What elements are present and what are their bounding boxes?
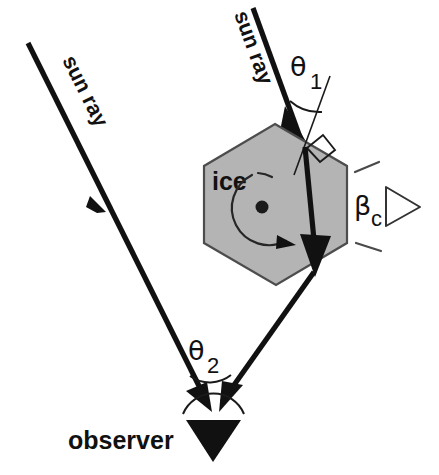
beta-subscript: c	[371, 206, 382, 231]
theta2-subscript: 2	[207, 353, 219, 378]
crystal-center-dot	[256, 201, 269, 214]
theta1-label-group: θ 1	[290, 51, 322, 94]
halo-refraction-diagram: Sun ray refraction through a hexagonal i…	[0, 0, 439, 475]
beta-open-wedge	[386, 187, 420, 226]
exit-ray-to-observer	[219, 272, 314, 412]
direct-sun-ray-line	[28, 43, 208, 404]
beta-c-angle-wedge: β c	[354, 162, 420, 251]
observer-triangle	[186, 420, 241, 462]
theta1-subscript: 1	[310, 69, 322, 94]
ice-label: ice	[212, 167, 247, 195]
hexagonal-ice-crystal	[204, 124, 347, 285]
observer-label: observer	[68, 426, 174, 454]
sun-ray-right-label-group: sun ray	[229, 8, 278, 88]
hexagon-shape	[204, 124, 347, 285]
exit-ray-line	[222, 272, 314, 402]
direct-sun-ray	[28, 43, 212, 412]
theta1-symbol: θ	[290, 51, 307, 82]
beta-upper-guide	[355, 162, 379, 172]
observer-brow-arc	[183, 394, 244, 414]
diagram-canvas: Sun ray refraction through a hexagonal i…	[0, 0, 439, 475]
theta2-symbol: θ	[188, 335, 205, 366]
beta-symbol: β	[354, 190, 371, 221]
sun-ray-right-label: sun ray	[229, 8, 278, 88]
observer-eye	[183, 394, 244, 462]
beta-lower-guide	[356, 243, 381, 251]
